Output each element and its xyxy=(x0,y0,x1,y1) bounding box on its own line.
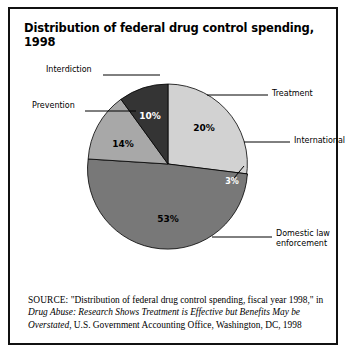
callout-domestic-line2: enforcement xyxy=(276,239,327,248)
pie-chart: 20% 3% 53% 14% 10% Interdiction Preventi… xyxy=(10,39,336,284)
source-note: SOURCE: "Distribution of federal drug co… xyxy=(28,294,328,331)
source-quoted-title: "Distribution of federal drug control sp… xyxy=(71,295,314,305)
callout-label-prevention: Prevention xyxy=(32,101,75,111)
pie-slice-domestic-law-enforcement[interactable] xyxy=(88,159,248,249)
callout-domestic-line1: Domestic law xyxy=(276,229,330,238)
slice-value-prevention: 14% xyxy=(112,139,134,149)
source-connector: in xyxy=(316,295,323,305)
figure-frame: Distribution of federal drug control spe… xyxy=(8,7,338,345)
slice-value-domestic: 53% xyxy=(157,214,179,224)
slice-value-international: 3% xyxy=(225,177,239,186)
callout-label-international: International xyxy=(294,136,345,146)
callout-label-treatment: Treatment xyxy=(272,89,313,99)
slice-value-treatment: 20% xyxy=(193,123,215,133)
source-publisher: , U.S. Government Accounting Office, Was… xyxy=(69,320,301,330)
callout-label-interdiction: Interdiction xyxy=(46,65,92,75)
callout-label-domestic-law-enforcement: Domestic law enforcement xyxy=(276,229,338,249)
slice-value-interdiction: 10% xyxy=(139,111,161,121)
source-prefix: SOURCE: xyxy=(28,295,68,305)
